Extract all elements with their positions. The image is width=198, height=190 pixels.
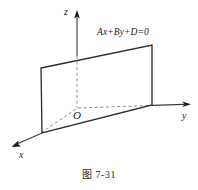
z-axis-label: z [64,7,68,17]
y-axis-line [152,104,184,105]
x-axis-line [18,133,43,144]
figure-container: z y x O Ax+By+D=0 图 7-31 [0,0,198,190]
y-axis-label: y [182,111,186,121]
origin-label: O [73,110,81,121]
x-axis-label: x [19,150,23,160]
x-axis-arrowhead [12,141,21,147]
figure-caption: 图 7-31 [0,166,198,181]
plane-polygon [41,45,152,133]
plane-equation-label: Ax+By+D=0 [97,28,149,38]
